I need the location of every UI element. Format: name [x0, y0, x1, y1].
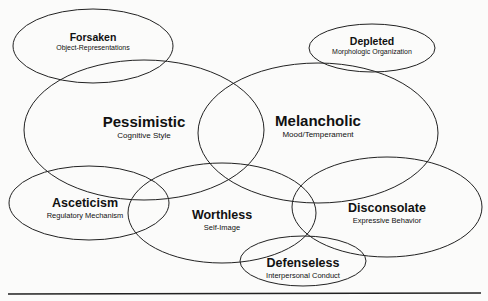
node-title: Worthless	[192, 209, 252, 223]
node-subtitle: Expressive Behavior	[348, 215, 426, 224]
node-title: Forsaken	[56, 32, 130, 44]
node-subtitle: Mood/Temperament	[275, 129, 361, 139]
node-title: Defenseless	[266, 257, 340, 271]
node-title: Depleted	[332, 36, 412, 48]
label-depleted: Depleted Morphologic Organization	[332, 36, 412, 56]
node-subtitle: Self-Image	[192, 222, 252, 231]
label-melancholic: Melancholic Mood/Temperament	[275, 113, 361, 139]
label-forsaken: Forsaken Object-Representations	[56, 32, 130, 52]
label-disconsolate: Disconsolate Expressive Behavior	[348, 202, 426, 225]
label-pessimistic: Pessimistic Cognitive Style	[103, 114, 186, 140]
node-title: Melancholic	[275, 113, 361, 130]
bottom-rule	[8, 293, 481, 294]
node-title: Pessimistic	[103, 114, 186, 131]
node-title: Disconsolate	[348, 202, 426, 216]
node-subtitle: Morphologic Organization	[332, 48, 412, 56]
label-defenseless: Defenseless Interpersonal Conduct	[266, 257, 340, 280]
label-worthless: Worthless Self-Image	[192, 209, 252, 232]
node-subtitle: Regulatory Mechanism	[47, 210, 124, 219]
node-subtitle: Interpersonal Conduct	[266, 270, 340, 279]
node-title: Asceticism	[47, 197, 124, 211]
node-subtitle: Object-Representations	[56, 44, 130, 52]
node-subtitle: Cognitive Style	[103, 130, 186, 140]
label-asceticism: Asceticism Regulatory Mechanism	[47, 197, 124, 220]
